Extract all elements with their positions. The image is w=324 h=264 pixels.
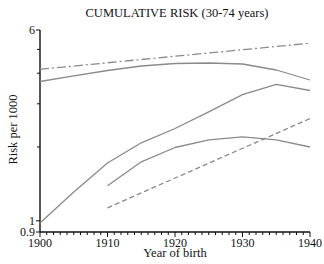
x-tick-label: 1940	[298, 236, 322, 250]
series-line-3	[40, 84, 310, 223]
x-tick-label: 1920	[163, 236, 187, 250]
x-tick-label: 1910	[96, 236, 120, 250]
plot-area: 0.91619001910192019301940	[0, 0, 324, 264]
x-tick-label: 1930	[231, 236, 255, 250]
series-line-5	[108, 119, 311, 208]
x-tick-label: 1900	[28, 236, 52, 250]
series-line-1	[40, 43, 310, 69]
y-tick-label: 6	[29, 23, 35, 37]
y-tick-label: 1	[29, 214, 35, 228]
